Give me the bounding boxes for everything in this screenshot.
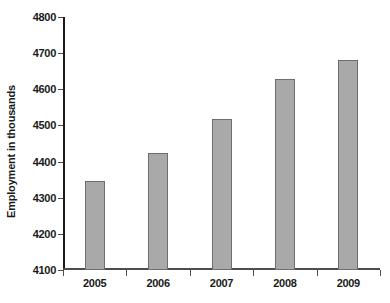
bar-2005 xyxy=(85,181,105,270)
y-axis-tick xyxy=(58,162,63,163)
x-axis-label-2007: 2007 xyxy=(192,277,252,289)
bar-2009 xyxy=(338,60,358,270)
x-axis-tick xyxy=(190,270,191,276)
y-axis-tick-label: 4100 xyxy=(10,264,56,276)
y-axis-tick-label: 4300 xyxy=(10,192,56,204)
bar-2008 xyxy=(275,79,295,270)
y-axis-tick xyxy=(58,125,63,126)
y-axis-tick-label: 4500 xyxy=(10,119,56,131)
plot-area xyxy=(63,17,380,270)
y-axis-tick xyxy=(58,89,63,90)
bar-2007 xyxy=(212,119,232,270)
x-axis-tick xyxy=(380,270,381,276)
bar-chart: Employment in thousands 4100420043004400… xyxy=(0,0,390,303)
x-axis-label-2006: 2006 xyxy=(128,277,188,289)
x-axis-label-2005: 2005 xyxy=(65,277,125,289)
x-axis-tick xyxy=(317,270,318,276)
x-axis-tick xyxy=(63,270,64,276)
y-axis-tick xyxy=(58,17,63,18)
x-axis-tick xyxy=(253,270,254,276)
y-axis-tick xyxy=(58,198,63,199)
x-axis-label-2009: 2009 xyxy=(318,277,378,289)
x-axis-label-2008: 2008 xyxy=(255,277,315,289)
y-axis-tick-labels: 41004200430044004500460047004800 xyxy=(8,17,56,270)
y-axis-tick-label: 4400 xyxy=(10,156,56,168)
y-axis-tick-label: 4200 xyxy=(10,228,56,240)
x-axis-tick xyxy=(126,270,127,276)
y-axis-tick xyxy=(58,234,63,235)
y-axis-line xyxy=(63,17,65,270)
bar-2006 xyxy=(148,153,168,270)
y-axis-tick xyxy=(58,53,63,54)
y-axis-tick-label: 4700 xyxy=(10,47,56,59)
y-axis-tick-label: 4800 xyxy=(10,11,56,23)
y-axis-tick-label: 4600 xyxy=(10,83,56,95)
